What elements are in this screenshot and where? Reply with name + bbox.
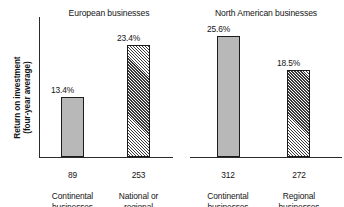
category-text-european-national-regional: National or regional businesses [118, 191, 159, 207]
category-label-northamerican-regional: 272 Regional businesses [265, 160, 333, 207]
value-label-northamerican-regional: 18.5% [266, 58, 311, 68]
panel-title-north-american: North American businesses [190, 8, 342, 18]
category-text-european-continental: Continental businesses [52, 191, 93, 207]
bar-northamerican-continental [217, 36, 240, 157]
category-label-european-national-regional: 253 National or regional businesses [106, 160, 171, 207]
category-label-northamerican-continental: 312 Continental businesses [193, 160, 263, 207]
value-label-european-continental: 13.4% [40, 85, 85, 95]
x-axis-baseline-left-panel [39, 157, 173, 158]
bar-european-national-regional [127, 45, 150, 157]
category-label-european-continental: 89 Continental businesses [40, 160, 105, 207]
sample-size-northamerican-regional: 272 [265, 170, 333, 181]
panel-title-european: European businesses [45, 8, 173, 18]
category-text-northamerican-continental: Continental businesses [207, 191, 248, 207]
x-axis-baseline-right-panel [190, 157, 342, 158]
category-text-northamerican-regional: Regional businesses [279, 191, 320, 207]
bar-northamerican-regional [287, 70, 310, 157]
y-axis-label: Return on investment (four-year average) [13, 28, 32, 168]
value-label-european-national-regional: 23.4% [106, 33, 151, 43]
sample-size-european-national-regional: 253 [106, 170, 171, 181]
sample-size-northamerican-continental: 312 [193, 170, 263, 181]
value-label-northamerican-continental: 25.6% [196, 24, 241, 34]
bar-european-continental [61, 97, 84, 157]
sample-size-european-continental: 89 [40, 170, 105, 181]
chart-figure: Return on investment (four-year average)… [0, 0, 344, 207]
